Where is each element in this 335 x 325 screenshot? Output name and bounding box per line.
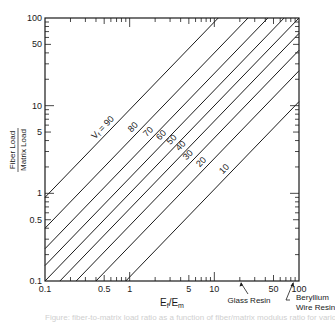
y-tick-label: 10	[32, 101, 42, 111]
series-line-vf-40	[60, 33, 299, 281]
y-tick-label: 100	[27, 13, 42, 23]
y-tick-label: 1	[37, 188, 42, 198]
series-line-vf-80	[45, 18, 248, 228]
load-ratio-chart: 0.10.51510501000.10.5151050100 Vf = 9080…	[0, 0, 335, 325]
annotation-glass-resin: Glass Resin	[227, 282, 270, 305]
x-tick-label: 1	[127, 284, 132, 294]
y-axis-label: Fiber Load Matrix Load	[8, 128, 28, 172]
x-tick-label: 0.5	[98, 284, 111, 294]
series-line-vf-20	[96, 71, 299, 281]
glass-resin-label: Glass Resin	[227, 296, 270, 305]
beryllium-label-line2: Wire Resin	[296, 303, 335, 312]
series-line-vf-60	[45, 18, 284, 266]
x-tick-label: 50	[269, 284, 279, 294]
series-line-vf-90	[45, 18, 218, 197]
figure-caption: Figure: fiber-to-matrix load ratio as a …	[45, 313, 335, 325]
beryllium-label-line1: Beryllium	[296, 293, 329, 302]
series-line-vf-30	[76, 50, 299, 281]
series-labels: Vf = 908070605040302010	[89, 114, 231, 176]
data-series-lines	[45, 18, 299, 281]
series-line-vf-50	[45, 18, 299, 281]
tick-labels: 0.10.51510501000.10.5151050100	[27, 13, 307, 294]
x-axis-label: Ef/Em	[160, 297, 184, 309]
y-tick-label: 5	[37, 127, 42, 137]
y-axis-label-numerator: Fiber Load	[8, 131, 17, 169]
y-tick-label: 50	[32, 39, 42, 49]
y-axis-label-denominator: Matrix Load	[19, 129, 28, 171]
y-tick-label: 0.5	[29, 215, 42, 225]
y-tick-label: 0.1	[29, 276, 42, 286]
x-tick-label: 10	[209, 284, 219, 294]
x-tick-label: 5	[186, 284, 191, 294]
